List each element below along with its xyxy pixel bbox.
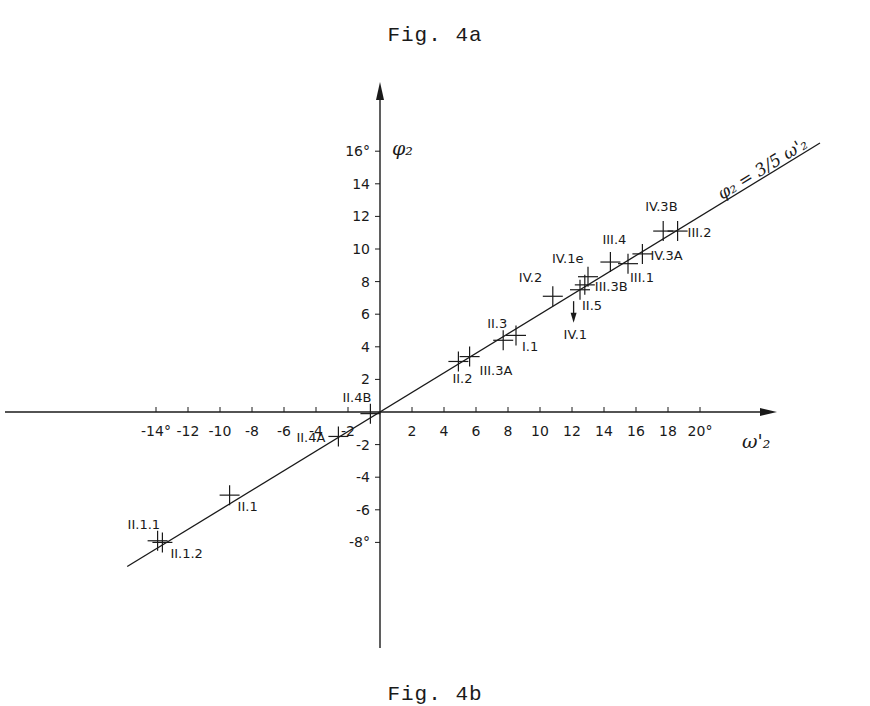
data-point: III.2 xyxy=(668,221,712,241)
point-label: II.4B xyxy=(342,390,371,405)
x-tick-label: 4 xyxy=(440,423,449,439)
data-point: IV.3A xyxy=(632,244,682,264)
x-tick-label: 8 xyxy=(504,423,513,439)
y-tick-label: 6 xyxy=(361,306,370,322)
point-label: II.1.2 xyxy=(170,546,202,561)
data-points: II.1.1II.1.2II.1II.4AII.4BII.2III.3AII.3… xyxy=(128,199,712,561)
annotation-label: IV.1 xyxy=(564,327,587,342)
data-point: IV.2 xyxy=(519,270,563,306)
figure-footer: Fig. 4b xyxy=(0,683,870,706)
y-tick-label: -2 xyxy=(356,437,370,453)
point-label: I.1 xyxy=(522,339,538,354)
x-tick-label: -8 xyxy=(245,423,259,439)
x-tick-label: 20° xyxy=(688,423,713,439)
point-label: III.3B xyxy=(595,279,628,294)
point-label: III.2 xyxy=(688,225,712,240)
x-tick-label: -6 xyxy=(277,423,291,439)
point-label: II.5 xyxy=(582,298,602,313)
data-point: IV.1e xyxy=(552,251,598,287)
y-tick-label: 8 xyxy=(361,274,370,290)
y-tick-label: -4 xyxy=(356,469,370,485)
y-tick-label: 4 xyxy=(361,339,370,355)
y-tick-label: -8° xyxy=(349,534,370,550)
y-tick-label: 14 xyxy=(352,176,370,192)
point-label: II.4A xyxy=(296,430,325,445)
data-point: III.4 xyxy=(600,232,626,272)
x-tick-label: 6 xyxy=(472,423,481,439)
point-label: II.3 xyxy=(487,316,507,331)
y-tick-label: -6 xyxy=(356,502,370,518)
y-tick-label: 12 xyxy=(352,208,370,224)
x-axis-arrow-icon xyxy=(760,408,777,416)
point-label: II.1.1 xyxy=(128,517,160,532)
point-label: IV.2 xyxy=(519,270,542,285)
point-label: II.2 xyxy=(452,371,472,386)
point-label: IV.1e xyxy=(552,251,583,266)
x-tick-label: 12 xyxy=(563,423,581,439)
fit-line-equation: φ₂ = 3/5 ω'₂ xyxy=(714,133,812,203)
x-tick-label: -14° xyxy=(141,423,171,439)
point-label: III.1 xyxy=(630,270,654,285)
x-tick-label: -12 xyxy=(177,423,200,439)
data-point: IV.3B xyxy=(645,199,677,241)
y-tick-label: 2 xyxy=(361,371,370,387)
data-point: II.4B xyxy=(342,390,380,424)
x-tick-label: 18 xyxy=(659,423,677,439)
point-label: II.1 xyxy=(238,499,258,514)
x-tick-label: 10 xyxy=(531,423,549,439)
data-point: II.1 xyxy=(220,485,258,514)
arrow-down-icon xyxy=(571,313,577,323)
data-point: III.3B xyxy=(575,275,628,295)
x-axis-label: ω'₂ xyxy=(742,430,770,452)
axes: -14°-12-10-8-6-4-22468101214161820°16°14… xyxy=(5,82,777,648)
y-axis-label: φ₂ xyxy=(392,137,413,159)
fit-line-path xyxy=(127,143,820,566)
fit-line: φ₂ = 3/5 ω'₂ xyxy=(127,133,820,566)
y-axis-arrow-icon xyxy=(376,82,384,100)
y-tick-label: 10 xyxy=(352,241,370,257)
y-tick-label: 16° xyxy=(345,143,370,159)
x-tick-label: 16 xyxy=(627,423,645,439)
x-tick-label: 14 xyxy=(595,423,613,439)
x-tick-label: -10 xyxy=(209,423,232,439)
point-label: IV.3B xyxy=(645,199,677,214)
point-label: IV.3A xyxy=(650,248,682,263)
point-label: III.3A xyxy=(480,363,513,378)
x-tick-label: 2 xyxy=(408,423,417,439)
point-label: III.4 xyxy=(602,232,626,247)
